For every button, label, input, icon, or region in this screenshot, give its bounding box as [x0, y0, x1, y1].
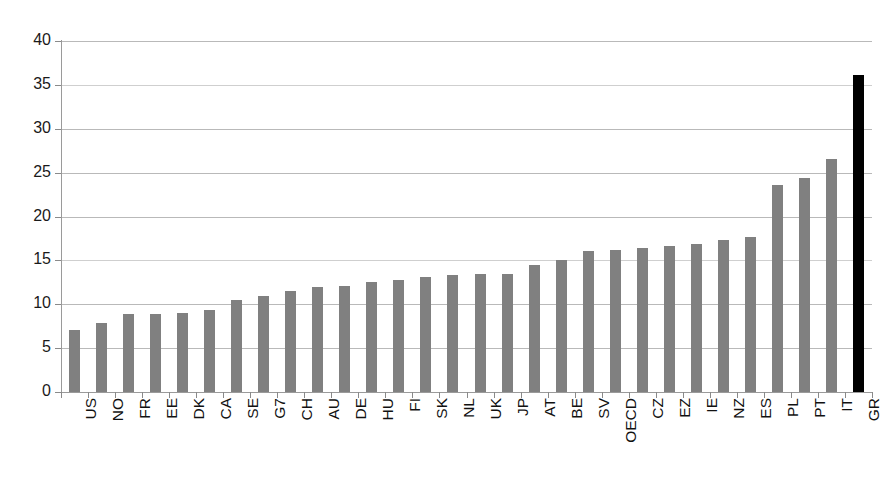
x-axis-tick-label-uk: UK: [487, 398, 505, 420]
bar-pl[interactable]: [772, 185, 783, 392]
bar-it[interactable]: [826, 159, 837, 392]
bar-se[interactable]: [231, 300, 242, 392]
x-tick-mark: [304, 392, 305, 398]
x-tick-mark: [575, 392, 576, 398]
x-tick-mark: [683, 392, 684, 398]
x-axis-tick-label-es: ES: [757, 398, 775, 419]
bar-us[interactable]: [69, 330, 80, 392]
bar-chart: 4035302520151050 USNOFREEDKCASEG7CHAUDEH…: [0, 0, 892, 493]
bar-ee[interactable]: [150, 314, 161, 392]
bar-es[interactable]: [745, 237, 756, 392]
bar-au[interactable]: [312, 287, 323, 392]
x-axis-tick-label-nl: NL: [460, 398, 478, 418]
x-tick-mark: [791, 392, 792, 398]
x-axis-tick-label-us: US: [82, 398, 100, 420]
x-tick-mark: [602, 392, 603, 398]
bar-jp[interactable]: [502, 274, 513, 393]
x-tick-mark: [88, 392, 89, 398]
x-axis-tick-label-gr: GR: [865, 398, 883, 421]
x-axis-tick-label-oecd: OECD: [622, 398, 640, 443]
bar-uk[interactable]: [475, 274, 486, 393]
x-axis-tick-label-sk: SK: [433, 398, 451, 419]
x-tick-mark: [710, 392, 711, 398]
bar-nz[interactable]: [718, 240, 729, 392]
x-axis-tick-label-cz: CZ: [649, 398, 667, 419]
bar-nl[interactable]: [447, 275, 458, 392]
x-tick-mark: [223, 392, 224, 398]
bar-g7[interactable]: [258, 296, 269, 392]
x-tick-mark: [115, 392, 116, 398]
x-tick-mark: [439, 392, 440, 398]
x-axis-tick-label-sv: SV: [595, 398, 613, 419]
x-tick-mark: [764, 392, 765, 398]
bar-sv[interactable]: [583, 251, 594, 392]
x-tick-mark: [385, 392, 386, 398]
x-axis-tick-label-pl: PL: [784, 398, 802, 417]
bar-be[interactable]: [556, 260, 567, 392]
x-tick-mark: [169, 392, 170, 398]
x-axis-tick-label-fr: FR: [136, 398, 154, 419]
bar-at[interactable]: [529, 265, 540, 392]
x-axis-tick-label-se: SE: [244, 398, 262, 419]
x-axis-tick-label-jp: JP: [514, 398, 532, 416]
bar-fr[interactable]: [123, 314, 134, 392]
x-axis-tick-label-fi: FI: [406, 398, 424, 412]
x-tick-mark: [845, 392, 846, 398]
x-axis-tick-label-ch: CH: [298, 398, 316, 420]
x-tick-mark: [656, 392, 657, 398]
x-axis-tick-label-au: AU: [325, 398, 343, 420]
x-axis-tick-label-ie: IE: [703, 398, 721, 413]
x-tick-mark: [494, 392, 495, 398]
x-axis-tick-label-pt: PT: [811, 398, 829, 418]
bar-ez[interactable]: [664, 246, 675, 392]
x-axis-tick-label-ca: CA: [217, 398, 235, 420]
x-tick-mark: [818, 392, 819, 398]
x-axis-tick-label-de: DE: [352, 398, 370, 420]
x-tick-mark: [548, 392, 549, 398]
x-tick-mark: [358, 392, 359, 398]
x-tick-mark: [737, 392, 738, 398]
x-tick-mark: [331, 392, 332, 398]
x-axis-tick-label-at: AT: [541, 398, 559, 417]
bar-ca[interactable]: [204, 310, 215, 392]
x-tick-mark: [521, 392, 522, 398]
x-tick-mark: [467, 392, 468, 398]
bars-layer: USNOFREEDKCASEG7CHAUDEHUFISKNLUKJPATBESV…: [0, 0, 892, 493]
x-tick-mark: [61, 392, 62, 398]
x-axis-tick-label-ez: EZ: [676, 398, 694, 418]
bar-pt[interactable]: [799, 178, 810, 392]
bar-sk[interactable]: [420, 277, 431, 392]
x-tick-mark: [142, 392, 143, 398]
bar-ch[interactable]: [285, 291, 296, 392]
bar-dk[interactable]: [177, 313, 188, 392]
x-axis-tick-label-dk: DK: [190, 398, 208, 420]
x-tick-mark: [250, 392, 251, 398]
x-axis-tick-label-g7: G7: [271, 398, 289, 419]
x-tick-mark: [629, 392, 630, 398]
x-axis-tick-label-hu: HU: [379, 398, 397, 420]
bar-cz[interactable]: [637, 248, 648, 392]
bar-hu[interactable]: [366, 282, 377, 392]
bar-oecd[interactable]: [610, 250, 621, 392]
x-tick-mark: [277, 392, 278, 398]
bar-fi[interactable]: [393, 280, 404, 392]
x-axis-tick-label-be: BE: [568, 398, 586, 419]
x-axis-tick-label-ee: EE: [163, 398, 181, 419]
bar-gr[interactable]: [853, 75, 864, 392]
bar-no[interactable]: [96, 323, 107, 392]
x-axis-tick-label-no: NO: [109, 398, 127, 421]
bar-ie[interactable]: [691, 244, 702, 392]
x-tick-mark: [196, 392, 197, 398]
x-axis-tick-label-nz: NZ: [730, 398, 748, 419]
x-axis-tick-label-it: IT: [838, 398, 856, 412]
bar-de[interactable]: [339, 286, 350, 392]
x-tick-mark: [872, 392, 873, 398]
x-tick-mark: [412, 392, 413, 398]
